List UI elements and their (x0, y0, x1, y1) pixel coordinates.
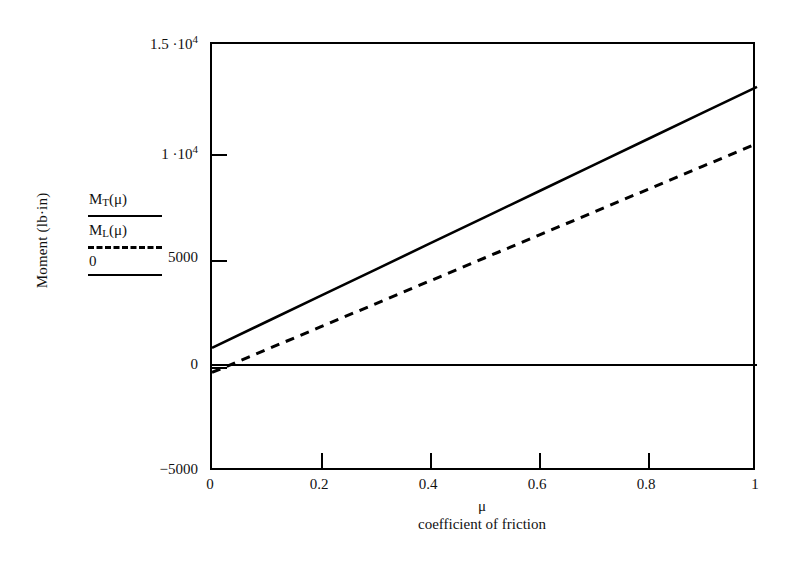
y-tick-label-15000: 1.5 ·104 (78, 33, 198, 53)
x-tick-label-0-6: 0.6 (507, 476, 567, 493)
legend-line-solid-zero (88, 274, 162, 276)
legend-label-ml-base: M (89, 222, 102, 238)
legend-label-ml-arg: (μ) (109, 222, 127, 238)
legend-line-solid-mt (88, 215, 162, 217)
series-line-ml (212, 144, 757, 373)
y-tick-label-5000: 5000 (78, 249, 198, 266)
y-tick-label-0: 0 (78, 356, 198, 373)
y-tick-label-10000: 1 ·104 (78, 143, 198, 163)
y-axis-title: Moment (lb·in) (34, 161, 51, 321)
x-tick-label-0-8: 0.8 (616, 476, 676, 493)
legend-sample-zero (88, 271, 168, 280)
x-tick-label-0-2: 0.2 (289, 476, 349, 493)
legend-label-mt-arg: (μ) (109, 191, 127, 207)
legend-label-mt: MT(μ) (88, 190, 168, 212)
x-axis-symbol: μ (452, 498, 512, 515)
y-tick-label-10000-exp: 4 (193, 143, 199, 155)
series-line-mt (212, 87, 757, 348)
x-tick-label-0: 0 (180, 476, 240, 493)
legend-sample-mt (88, 212, 168, 221)
legend-label-ml: ML(μ) (88, 221, 168, 243)
curves-layer (212, 44, 757, 472)
plot-area (210, 42, 755, 470)
figure-canvas: Moment (lb·in) MT(μ) ML(μ) 0 1.5 ·104 1 … (0, 0, 792, 570)
x-tick-label-0-4: 0.4 (398, 476, 458, 493)
y-tick-label-15000-exp: 4 (193, 33, 199, 45)
legend-label-mt-base: M (89, 191, 102, 207)
x-tick-label-1: 1 (725, 476, 785, 493)
legend: MT(μ) ML(μ) 0 (88, 190, 168, 280)
x-axis-title: coefficient of friction (392, 516, 572, 533)
legend-entry-ml: ML(μ) (88, 221, 168, 252)
legend-entry-mt: MT(μ) (88, 190, 168, 221)
y-tick-label-10000-mantissa: 1 ·10 (161, 146, 192, 162)
y-tick-label-15000-mantissa: 1.5 ·10 (150, 36, 193, 52)
